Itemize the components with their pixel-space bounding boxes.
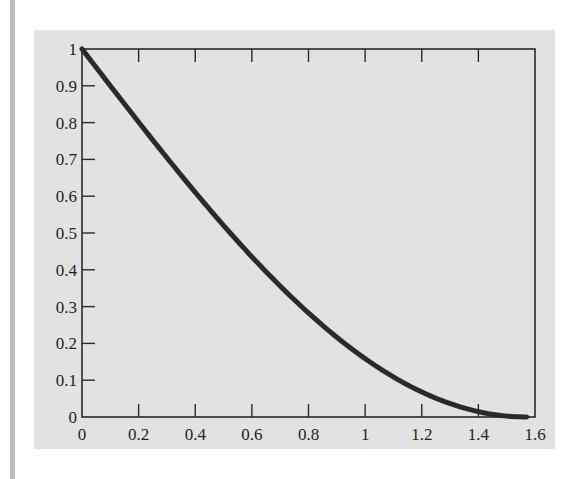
x-tick-label: 0 <box>78 425 87 444</box>
plot-frame <box>82 49 535 417</box>
x-tick-label: 1.6 <box>524 425 545 444</box>
x-tick-label: 1.2 <box>411 425 432 444</box>
y-tick-label: 0.8 <box>56 114 77 133</box>
x-tick-label: 0.6 <box>241 425 262 444</box>
y-tick-label: 0.2 <box>56 334 77 353</box>
y-tick-label: 0.4 <box>56 261 78 280</box>
y-axis: 00.10.20.30.40.50.60.70.80.91 <box>56 40 95 427</box>
y-tick-label: 0.5 <box>56 224 77 243</box>
x-tick-label: 0.8 <box>298 425 319 444</box>
y-tick-label: 0.1 <box>56 371 77 390</box>
y-tick-label: 0 <box>69 408 78 427</box>
x-tick-label: 1 <box>361 425 370 444</box>
y-tick-label: 0.7 <box>56 150 78 169</box>
y-tick-label: 0.3 <box>56 298 77 317</box>
y-tick-label: 1 <box>69 40 78 59</box>
x-tick-label: 0.2 <box>128 425 149 444</box>
x-axis: 00.20.40.60.811.21.41.6 <box>78 49 546 444</box>
y-tick-label: 0.6 <box>56 187 77 206</box>
line-chart: 00.20.40.60.811.21.41.6 00.10.20.30.40.5… <box>0 0 576 479</box>
y-tick-label: 0.9 <box>56 77 77 96</box>
x-tick-label: 0.4 <box>185 425 207 444</box>
x-tick-label: 1.4 <box>468 425 490 444</box>
data-curve <box>82 49 527 417</box>
